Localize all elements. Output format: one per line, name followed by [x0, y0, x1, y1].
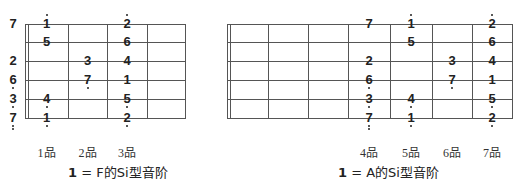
fret-note: 1	[401, 17, 421, 30]
note-digit: 7	[365, 110, 372, 125]
fret-label: 6品	[437, 143, 467, 161]
fret-note: 1	[482, 73, 502, 86]
octave-dot-below	[46, 125, 48, 127]
string-line	[25, 80, 185, 81]
nut-line	[227, 24, 228, 119]
open-string-note: 7	[3, 17, 23, 30]
fret-label: 4品	[354, 143, 384, 161]
nut-line	[230, 24, 231, 119]
note-digit: 2	[123, 110, 130, 125]
nut-line	[28, 24, 29, 119]
string-line	[227, 42, 512, 43]
open-string-note: 3	[3, 92, 23, 105]
fret-note: 2	[117, 111, 137, 124]
octave-dot-below	[368, 128, 370, 130]
octave-dot-below	[491, 125, 493, 127]
note-digit: 5	[43, 34, 50, 49]
fret-note: 7	[78, 73, 98, 86]
fret-label: 5品	[396, 143, 426, 161]
octave-dot-below	[491, 106, 493, 108]
fret-note: 1	[401, 111, 421, 124]
fret-note: 6	[482, 35, 502, 48]
fret-note: 3	[442, 54, 462, 67]
fret-note: 3	[78, 54, 98, 67]
note-digit: 6	[488, 34, 495, 49]
fret-note: 5	[401, 35, 421, 48]
note-digit: 6	[365, 72, 372, 87]
note-digit: 1	[123, 72, 130, 87]
note-digit: 2	[488, 16, 495, 31]
note-digit: 3	[9, 91, 16, 106]
fret-note: 5	[482, 92, 502, 105]
note-digit: 1	[43, 16, 50, 31]
octave-dot-below	[12, 106, 14, 108]
octave-dot-below	[451, 87, 453, 89]
fret-note: 7	[359, 17, 379, 30]
octave-dot-above	[410, 14, 412, 16]
fret-note: 3	[359, 92, 379, 105]
note-digit: 2	[365, 53, 372, 68]
fret-note: 4	[482, 54, 502, 67]
fret-note: 1	[37, 17, 57, 30]
octave-dot-below	[410, 106, 412, 108]
octave-dot-below	[368, 106, 370, 108]
fret-label: 2品	[73, 143, 103, 161]
note-digit: 1	[407, 110, 414, 125]
octave-dot-below	[368, 125, 370, 127]
fret-line	[107, 24, 108, 119]
fret-note: 4	[117, 54, 137, 67]
note-digit: 7	[448, 72, 455, 87]
fret-line	[147, 24, 148, 119]
fret-note: 2	[482, 111, 502, 124]
fret-note: 2	[359, 54, 379, 67]
note-digit: 3	[448, 53, 455, 68]
fret-line	[390, 24, 391, 119]
fret-line	[268, 24, 269, 119]
note-digit: 1	[488, 72, 495, 87]
fret-line	[512, 24, 513, 119]
fret-note: 1	[37, 111, 57, 124]
fret-line	[472, 24, 473, 119]
octave-dot-above	[46, 14, 48, 16]
fret-note: 4	[37, 92, 57, 105]
scale-diagrams: 726371541372641521品2品3品1 = F的Si型音阶726371…	[0, 0, 522, 182]
note-digit: 5	[123, 91, 130, 106]
fret-note: 5	[37, 35, 57, 48]
note-digit: 4	[407, 91, 414, 106]
fret-line	[348, 24, 349, 119]
octave-dot-above	[491, 14, 493, 16]
open-string-note: 6	[3, 73, 23, 86]
open-string-note: 2	[3, 54, 23, 67]
fret-label: 1品	[32, 143, 62, 161]
note-digit: 7	[9, 16, 16, 31]
fret-note: 2	[117, 17, 137, 30]
octave-dot-below	[12, 87, 14, 89]
octave-dot-above	[126, 14, 128, 16]
fret-note: 7	[442, 73, 462, 86]
fret-note: 1	[117, 73, 137, 86]
fret-note: 5	[117, 92, 137, 105]
note-digit: 1	[407, 16, 414, 31]
scale-caption: 1 = F的Si型音阶	[68, 162, 168, 181]
fret-label: 7品	[477, 143, 507, 161]
octave-dot-below	[368, 87, 370, 89]
nut-line	[25, 24, 26, 119]
scale-caption: 1 = A的Si型音阶	[338, 162, 439, 181]
fret-note: 4	[401, 92, 421, 105]
fret-note: 7	[359, 111, 379, 124]
note-digit: 3	[84, 53, 91, 68]
fret-line	[185, 24, 186, 119]
note-digit: 2	[9, 53, 16, 68]
octave-dot-below	[410, 125, 412, 127]
fret-line	[68, 24, 69, 119]
note-digit: 7	[9, 110, 16, 125]
tonic-number: 1	[68, 165, 77, 180]
note-digit: 4	[488, 53, 495, 68]
fret-line	[432, 24, 433, 119]
open-string-note: 7	[3, 111, 23, 124]
note-digit: 4	[123, 53, 130, 68]
note-digit: 7	[365, 16, 372, 31]
fret-note: 6	[359, 73, 379, 86]
fret-label: 3品	[112, 143, 142, 161]
note-digit: 6	[9, 72, 16, 87]
